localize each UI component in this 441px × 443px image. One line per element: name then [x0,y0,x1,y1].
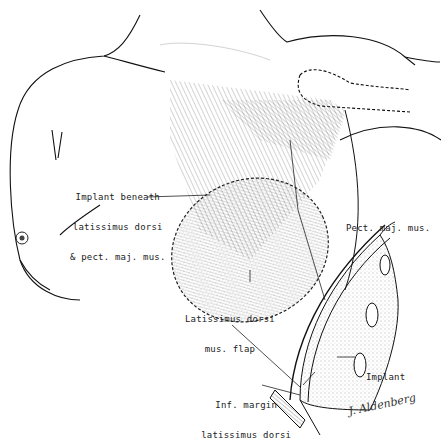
label-line: Pect. maj. mus. [346,223,430,233]
label-pect-maj-mus: Pect. maj. mus. [346,203,430,253]
label-line: & pect. maj. mus. [70,252,166,262]
label-line: Implant [366,372,405,382]
label-line: Inf. margin [190,400,302,410]
anatomical-illustration: Implant beneath latissimus dorsi & pect.… [0,0,441,443]
label-line: mus. flap [185,344,275,354]
label-line: Implant beneath [70,192,166,202]
nipple-icon [16,232,28,244]
label-latissimus-flap: Latissimus dorsi mus. flap [185,294,275,374]
label-inf-margin: Inf. margin latissimus dorsi sutured to … [190,380,302,443]
label-implant-beneath: Implant beneath latissimus dorsi & pect.… [70,172,166,282]
label-line: latissimus dorsi [70,222,166,232]
label-line: latissimus dorsi [190,430,302,440]
label-line: Latissimus dorsi [185,314,275,324]
